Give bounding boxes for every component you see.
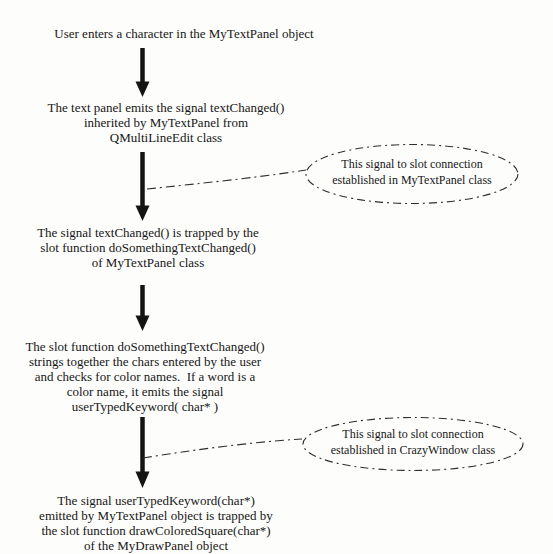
flow-step-check-color-names: The slot function doSomethingTextChanged… — [10, 339, 280, 414]
flow-step-emit-textchanged: The text panel emits the signal textChan… — [21, 100, 311, 145]
flow-step-slot-traps-textchanged: The signal textChanged() is trapped by t… — [13, 225, 283, 270]
diagram-graphics — [0, 0, 553, 554]
callout-label-crazywindow: This signal to slot connection establish… — [313, 427, 513, 458]
flow-step-drawcoloredsquare: The signal userTypedKeyword(char*) emitt… — [16, 493, 296, 553]
down-arrow-icon-3 — [136, 285, 150, 331]
down-arrow-icon-1 — [136, 48, 150, 97]
callout-label-mytextpanel: This signal to slot connection establish… — [312, 157, 512, 188]
flow-step-user-input: User enters a character in the MyTextPan… — [19, 26, 349, 41]
callout-connector-line-1 — [147, 170, 306, 189]
flowchart-diagram: User enters a character in the MyTextPan… — [0, 0, 553, 554]
down-arrow-icon-2 — [136, 152, 150, 221]
callout-connector-line-2 — [143, 439, 302, 458]
down-arrow-icon-4 — [136, 417, 150, 488]
